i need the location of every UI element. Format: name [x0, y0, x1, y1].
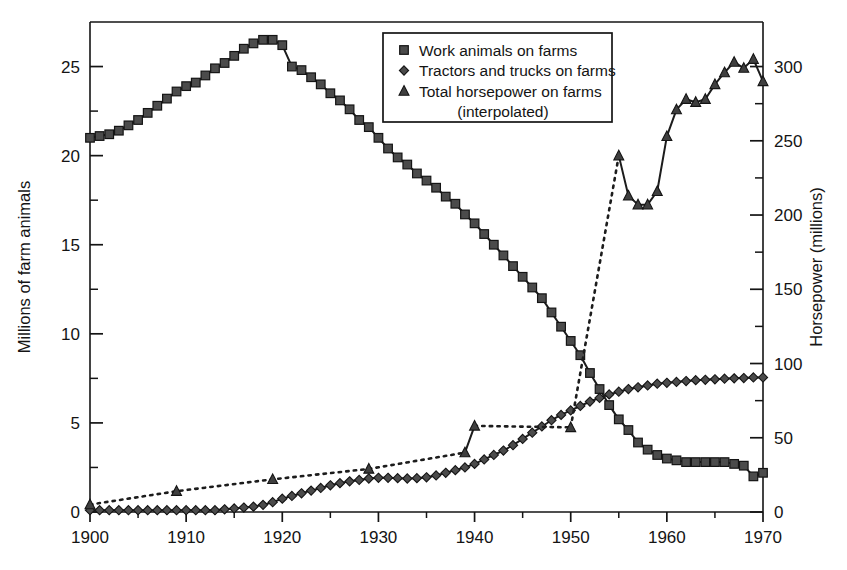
data-point-diamond — [662, 378, 671, 387]
data-point-diamond — [393, 474, 402, 483]
data-point-square — [461, 210, 470, 219]
data-point-square — [384, 144, 393, 153]
data-point-diamond — [201, 506, 210, 515]
data-point-diamond — [499, 446, 508, 455]
data-point-square — [374, 134, 383, 143]
data-point-diamond — [133, 506, 142, 515]
data-point-square — [143, 109, 152, 118]
data-point-diamond — [249, 502, 258, 511]
data-point-square — [499, 251, 508, 260]
left-axis-title: Millions of farm animals — [15, 181, 33, 353]
data-point-diamond — [480, 455, 489, 464]
data-point-diamond — [162, 506, 171, 515]
y-tick-label: 10 — [61, 325, 80, 344]
data-point-square — [759, 469, 768, 478]
data-point-diamond — [470, 459, 479, 468]
data-point-diamond — [451, 466, 460, 475]
x-tick-label: 1900 — [71, 528, 109, 547]
data-point-diamond — [643, 381, 652, 390]
data-point-square — [201, 71, 210, 80]
y-tick-label: 20 — [61, 147, 80, 166]
y-tick-label: 25 — [61, 58, 80, 77]
data-point-diamond — [268, 498, 277, 507]
data-point-square — [490, 240, 499, 249]
data-point-diamond — [614, 387, 623, 396]
data-point-diamond — [422, 473, 431, 482]
data-point-square — [345, 105, 354, 114]
data-point-diamond — [730, 374, 739, 383]
data-point-square — [624, 426, 633, 435]
data-point-diamond — [749, 373, 758, 382]
x-tick-label: 1910 — [167, 528, 205, 547]
data-point-diamond — [624, 384, 633, 393]
data-point-square — [432, 183, 441, 192]
data-point-square — [566, 337, 575, 346]
data-point-square — [153, 101, 162, 110]
data-point-square — [413, 169, 422, 178]
data-point-square — [701, 458, 710, 467]
x-tick-label: 1950 — [552, 528, 590, 547]
y2-tick-label: 300 — [774, 58, 802, 77]
data-point-square — [182, 82, 191, 91]
x-tick-label: 1930 — [360, 528, 398, 547]
y2-tick-label: 250 — [774, 132, 802, 151]
x-axis: 19001910192019301940195019601970 — [71, 512, 782, 547]
data-point-diamond — [585, 397, 594, 406]
data-point-diamond — [460, 463, 469, 472]
data-point-square — [326, 89, 335, 98]
data-point-square — [86, 134, 95, 143]
data-point-square — [595, 385, 604, 394]
data-point-diamond — [335, 479, 344, 488]
data-point-square — [105, 130, 114, 139]
data-point-diamond — [153, 506, 162, 515]
data-point-diamond — [720, 374, 729, 383]
data-point-diamond — [701, 375, 710, 384]
data-point-square — [720, 458, 729, 467]
y-tick-label: 0 — [71, 503, 80, 522]
data-point-triangle — [652, 186, 662, 196]
data-point-diamond — [633, 383, 642, 392]
data-point-diamond — [105, 506, 114, 515]
data-point-square — [211, 64, 220, 73]
y-tick-label: 15 — [61, 236, 80, 255]
right-axis-title: Horsepower (millions) — [807, 187, 825, 347]
data-point-diamond — [403, 474, 412, 483]
data-point-diamond — [307, 486, 316, 495]
x-tick-label: 1940 — [456, 528, 494, 547]
data-point-square — [230, 52, 239, 61]
data-point-diamond — [739, 373, 748, 382]
data-point-diamond — [316, 483, 325, 492]
data-point-square — [422, 176, 431, 185]
data-point-square — [451, 199, 460, 208]
data-point-square — [547, 308, 556, 317]
data-point-square — [749, 472, 758, 481]
x-tick-label: 1960 — [648, 528, 686, 547]
data-point-square — [268, 36, 277, 45]
data-point-square — [557, 322, 566, 331]
data-point-triangle — [748, 54, 758, 64]
data-point-square — [470, 219, 479, 228]
figure-container: 1900191019201930194019501960197005101520… — [0, 0, 847, 570]
data-point-diamond — [691, 376, 700, 385]
data-point-square — [240, 44, 249, 53]
y2-tick-label: 0 — [774, 503, 783, 522]
series-segment-solid — [619, 59, 763, 205]
data-point-square — [711, 458, 720, 467]
data-point-diamond — [758, 373, 767, 382]
data-point-square — [518, 273, 527, 282]
series-segment-dotted — [475, 426, 571, 427]
data-point-diamond — [345, 477, 354, 486]
series-2 — [85, 373, 767, 515]
data-point-diamond — [191, 506, 200, 515]
data-point-square — [586, 369, 595, 378]
x-tick-label: 1970 — [744, 528, 782, 547]
data-point-diamond — [355, 475, 364, 484]
data-point-diamond — [278, 494, 287, 503]
data-point-triangle — [681, 94, 691, 104]
data-point-diamond — [364, 474, 373, 483]
legend-label: Total horsepower on farms — [419, 83, 602, 100]
legend: Work animals on farmsTractors and trucks… — [383, 33, 616, 122]
data-point-square — [393, 153, 402, 162]
data-point-diamond — [681, 376, 690, 385]
data-point-diamond — [672, 377, 681, 386]
